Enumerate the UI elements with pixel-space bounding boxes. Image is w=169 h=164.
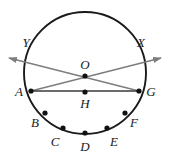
point-label-o: O xyxy=(80,57,90,72)
point-label-x: X xyxy=(136,35,146,50)
circle-outline xyxy=(24,12,146,134)
point-label-d: D xyxy=(79,139,90,154)
point-label-h: H xyxy=(79,96,90,111)
point-label-c: C xyxy=(51,134,60,149)
geometry-diagram: O H A G B C D E F X Y xyxy=(0,0,169,164)
ray-g-o-y xyxy=(9,58,139,91)
point-dot-f xyxy=(122,110,127,115)
point-label-f: F xyxy=(129,115,139,130)
point-dot-g xyxy=(136,88,141,93)
point-dot-e xyxy=(104,125,109,130)
point-label-a: A xyxy=(14,84,23,99)
point-dot-h xyxy=(82,89,87,94)
point-dot-c xyxy=(60,125,65,130)
point-label-b: B xyxy=(31,115,39,130)
point-dot-d xyxy=(82,130,87,135)
point-label-g: G xyxy=(146,84,156,99)
point-dot-o xyxy=(82,73,87,78)
point-dot-b xyxy=(42,110,47,115)
point-label-e: E xyxy=(109,134,118,149)
geometry-canvas: O H A G B C D E F X Y xyxy=(0,0,169,164)
ray-a-o-x xyxy=(31,58,161,91)
point-dot-a xyxy=(28,88,33,93)
